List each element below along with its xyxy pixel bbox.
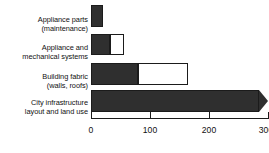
bar-segment-dark	[91, 63, 138, 85]
category-label-line1: Building fabric	[42, 72, 88, 81]
x-axis-tick-0	[91, 112, 92, 119]
bar-overflow-arrow-icon	[259, 90, 268, 112]
x-axis-label-300: 300	[251, 125, 269, 135]
x-axis-line	[91, 118, 269, 119]
horizontal-bar-chart: Appliance parts (maintenance) Appliance …	[0, 0, 269, 153]
bar-building-fabric	[91, 63, 188, 85]
bar-appliance-mechanical	[91, 34, 124, 55]
bar-segment-dark	[91, 34, 110, 55]
x-axis-tick-200	[209, 112, 210, 119]
bar-segment-dark	[91, 5, 103, 27]
x-axis-label-100: 100	[135, 125, 165, 135]
category-label-city-infrastructure: City infrastructure layout and land use	[0, 89, 88, 126]
category-label-line1: Appliance and	[42, 43, 88, 52]
category-label-line2: mechanical systems	[0, 52, 88, 61]
x-axis-tick-300	[268, 112, 269, 119]
bar-segment-light	[138, 63, 188, 85]
x-axis-tick-100	[150, 112, 151, 119]
category-label-line2: layout and land use	[0, 107, 88, 116]
category-label-line1: Appliance parts	[38, 15, 88, 24]
bar-city-infrastructure	[91, 90, 259, 112]
category-label-line1: City infrastructure	[31, 98, 88, 107]
category-label-line2: (maintenance)	[0, 24, 88, 33]
bar-segment-light	[110, 34, 124, 55]
x-axis-label-200: 200	[194, 125, 224, 135]
x-axis-label-0: 0	[76, 125, 106, 135]
bar-appliance-parts	[91, 5, 103, 27]
